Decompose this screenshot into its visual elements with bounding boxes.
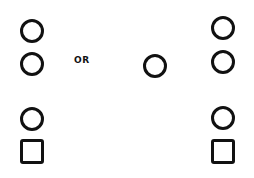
middle-circle bbox=[143, 54, 167, 78]
left-circle-2 bbox=[20, 52, 44, 76]
right-circle-3 bbox=[211, 106, 235, 130]
left-square bbox=[20, 139, 44, 164]
left-circle-3 bbox=[20, 107, 44, 131]
right-circle-2 bbox=[211, 50, 235, 74]
or-label: OR bbox=[74, 55, 90, 65]
right-square bbox=[211, 139, 235, 164]
right-circle-1 bbox=[211, 16, 235, 40]
diagram-canvas: OR bbox=[0, 0, 254, 178]
left-circle-1 bbox=[20, 19, 44, 43]
